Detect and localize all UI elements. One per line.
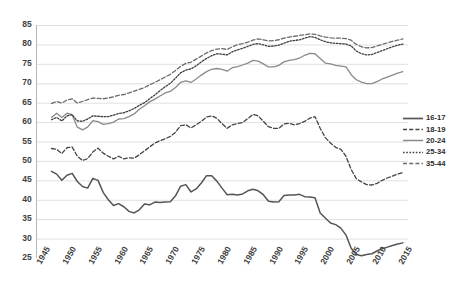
legend-swatch-20-24 bbox=[403, 136, 423, 144]
legend-item-16-17[interactable]: 16-17 bbox=[403, 112, 464, 123]
y-tick-label-text: 80 bbox=[22, 38, 32, 48]
y-tick-label-text: 40 bbox=[22, 194, 32, 204]
chart-legend: 16-1718-1920-2425-3435-44 bbox=[403, 112, 464, 169]
series-line-16-17 bbox=[52, 171, 403, 255]
series-line-25-34 bbox=[52, 37, 403, 122]
plot-area bbox=[36, 25, 408, 258]
legend-label: 25-34 bbox=[426, 147, 445, 156]
legend-item-20-24[interactable]: 20-24 bbox=[403, 135, 464, 146]
y-tick-label-text: 70 bbox=[22, 77, 32, 87]
y-tick-label-text: 60 bbox=[22, 116, 32, 126]
y-tick-label-text: 35 bbox=[22, 213, 32, 223]
legend-item-35-44[interactable]: 35-44 bbox=[403, 158, 464, 169]
legend-swatch-18-19 bbox=[403, 125, 423, 133]
y-tick-label-text: 45 bbox=[22, 174, 32, 184]
x-axis: 1945195019551960196519701975198019851990… bbox=[0, 258, 464, 304]
y-tick-label-text: 55 bbox=[22, 136, 32, 146]
legend-swatch-16-17 bbox=[403, 114, 423, 122]
legend-swatch-35-44 bbox=[403, 159, 423, 167]
series-line-20-24 bbox=[52, 53, 403, 130]
y-tick-label-text: 50 bbox=[22, 155, 32, 165]
legend-label: 35-44 bbox=[426, 159, 445, 168]
y-tick-label-text: 65 bbox=[22, 97, 32, 107]
legend-swatch-25-34 bbox=[403, 148, 423, 156]
y-tick-label-text: 85 bbox=[22, 19, 32, 29]
y-tick-label-text: 75 bbox=[22, 58, 32, 68]
legend-label: 16-17 bbox=[426, 113, 445, 122]
legend-label: 18-19 bbox=[426, 125, 445, 134]
chart-container: 85807570656055504540353025 1945195019551… bbox=[0, 0, 464, 304]
y-tick-label-text: 30 bbox=[22, 233, 32, 243]
legend-item-18-19[interactable]: 18-19 bbox=[403, 123, 464, 134]
series-line-18-19 bbox=[52, 114, 403, 185]
legend-item-25-34[interactable]: 25-34 bbox=[403, 146, 464, 157]
legend-label: 20-24 bbox=[426, 136, 445, 145]
chart-svg bbox=[36, 25, 408, 258]
series-line-35-44 bbox=[52, 34, 403, 104]
